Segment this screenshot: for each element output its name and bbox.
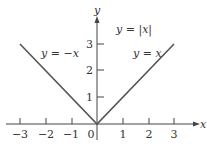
- abs-annotation: y = |x|: [115, 23, 152, 37]
- y-tick-label: 1: [86, 91, 93, 104]
- y-tick-label: 3: [86, 38, 93, 51]
- neg-annotation: y = −x: [40, 47, 80, 60]
- x-tick-label: 1: [120, 128, 127, 141]
- x-tick-label: 3: [171, 128, 178, 141]
- y-tick-label: 2: [86, 64, 93, 77]
- y-axis-arrow-icon: [95, 16, 100, 23]
- y-ticks: [97, 44, 104, 97]
- abs-value-chart: −3 −2 −1 0 1 2 3 1 2 3 x y y = |x| y = −…: [0, 0, 207, 146]
- x-tick-label: −1: [63, 128, 79, 141]
- x-tick-label: 0: [88, 128, 95, 141]
- y-axis-label: y: [93, 4, 101, 17]
- x-axis-label: x: [200, 118, 207, 131]
- x-tick-label: −2: [38, 128, 54, 141]
- pos-annotation: y = x: [132, 47, 162, 60]
- x-tick-label: 2: [146, 128, 153, 141]
- x-tick-label: −3: [12, 128, 28, 141]
